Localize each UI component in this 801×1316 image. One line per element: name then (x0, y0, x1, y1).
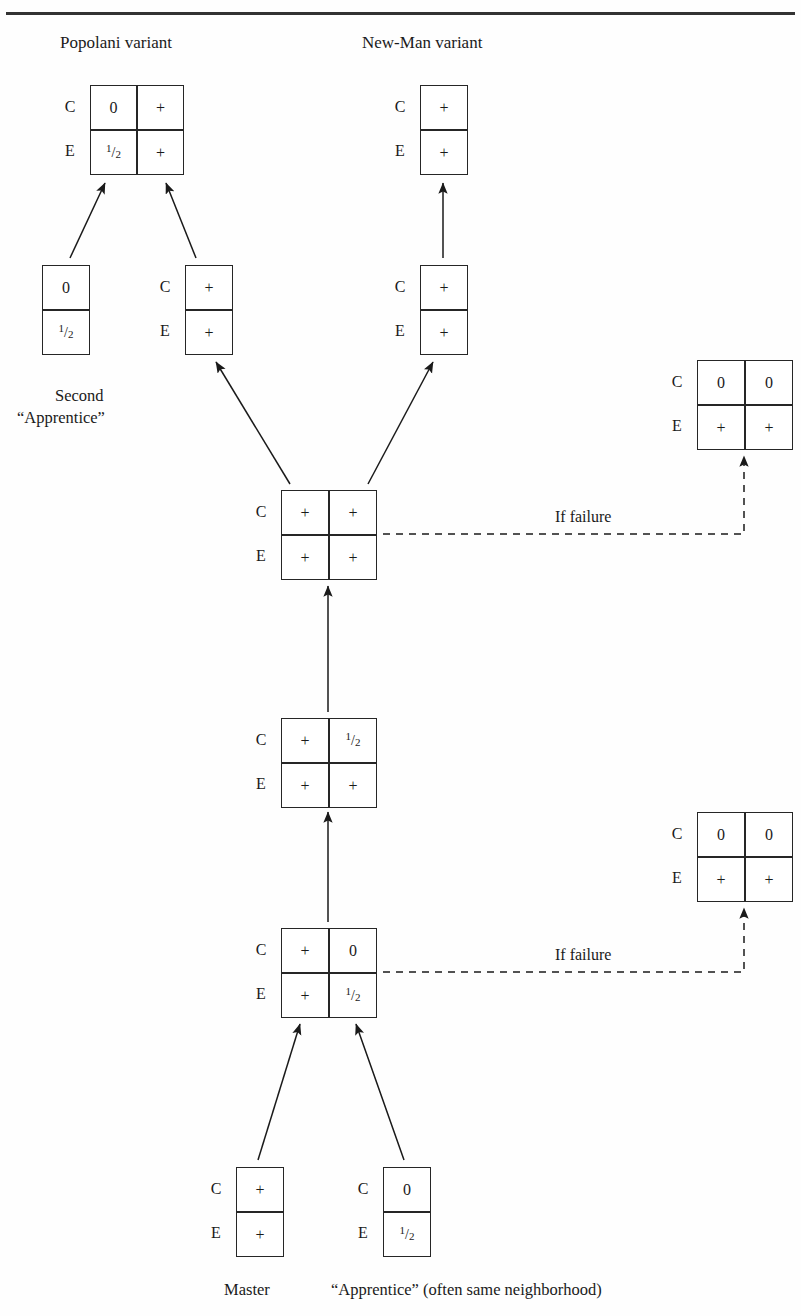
row-label-e-newman-parent: E (392, 323, 408, 339)
matrix-cell: + (329, 491, 376, 535)
matrix-cell: 1/2 (91, 130, 137, 174)
row-label-c-popolani-result: C (62, 99, 78, 115)
connector-layer (0, 0, 801, 1316)
new-man-parent-matrix: ++ (420, 265, 468, 355)
edge-label-if-failure-top: If failure (555, 508, 611, 526)
matrix-cell: + (421, 86, 467, 130)
failure-outcome-top-matrix: 00++ (697, 360, 793, 450)
matrix-cell: + (282, 763, 329, 807)
matrix-cell: + (237, 1168, 283, 1212)
matrix-cell: + (137, 86, 183, 130)
row-label-e-failure-top: E (669, 418, 685, 434)
row-label-e-popolani-parent: E (157, 323, 173, 339)
row-label-c-newman-result: C (392, 99, 408, 115)
row-label-e-center-full: E (253, 548, 269, 564)
lower-stage-matrix: +0+1/2 (281, 928, 377, 1018)
row-label-e-master: E (208, 1225, 224, 1241)
row-label-c-master: C (208, 1181, 224, 1197)
matrix-cell: + (329, 535, 376, 579)
row-label-c-mid-half: C (253, 732, 269, 748)
matrix-cell: + (698, 857, 745, 901)
matrix-cell: 0 (745, 361, 792, 405)
matrix-cell: 1/2 (384, 1212, 430, 1256)
center-full-plus-matrix: ++++ (281, 490, 377, 580)
matrix-cell: + (745, 857, 792, 901)
matrix-cell: 1/2 (329, 719, 376, 763)
matrix-cell: 1/2 (43, 310, 89, 354)
matrix-cell: + (282, 535, 329, 579)
matrix-cell: + (186, 310, 232, 354)
row-label-c-apprentice: C (355, 1181, 371, 1197)
row-label-c-center-full: C (253, 504, 269, 520)
arrow-center-to-popolani-parent (216, 362, 290, 484)
failure-outcome-bottom-matrix: 00++ (697, 812, 793, 902)
matrix-cell: + (186, 266, 232, 310)
popolani-parent-matrix: ++ (185, 265, 233, 355)
matrix-cell: 0 (91, 86, 137, 130)
matrix-cell: 1/2 (329, 973, 376, 1017)
row-label-e-newman-result: E (392, 143, 408, 159)
popolani-variant-matrix: 0+1/2+ (90, 85, 184, 175)
heading-popolani-variant: Popolani variant (60, 33, 172, 53)
arrow-master-to-lower (258, 1024, 300, 1160)
row-label-c-failure-bottom: C (669, 826, 685, 842)
row-label-c-failure-top: C (669, 374, 685, 390)
master-matrix: ++ (236, 1167, 284, 1257)
caption-second: Second (55, 385, 104, 407)
row-label-c-newman-parent: C (392, 279, 408, 295)
matrix-cell: + (237, 1212, 283, 1256)
caption-apprentice: “Apprentice” (often same neighborhood) (331, 1279, 602, 1301)
matrix-cell: + (329, 763, 376, 807)
row-label-c-popolani-parent: C (157, 279, 173, 295)
new-man-variant-matrix: ++ (420, 85, 468, 175)
matrix-cell: + (282, 491, 329, 535)
arrow-apprentice-to-lower (356, 1024, 404, 1160)
matrix-cell: + (421, 130, 467, 174)
arrow-center-to-newman-parent (368, 362, 433, 484)
row-label-e-lower-zero: E (253, 986, 269, 1002)
matrix-cell: + (421, 266, 467, 310)
matrix-cell: + (745, 405, 792, 449)
matrix-cell: 0 (329, 929, 376, 973)
matrix-cell: + (282, 973, 329, 1017)
matrix-cell: + (282, 929, 329, 973)
caption-master: Master (224, 1279, 270, 1301)
row-label-e-mid-half: E (253, 776, 269, 792)
matrix-cell: + (282, 719, 329, 763)
row-label-e-apprentice: E (355, 1225, 371, 1241)
matrix-cell: 0 (384, 1168, 430, 1212)
second-apprentice-matrix: 01/2 (42, 265, 90, 355)
matrix-cell: + (698, 405, 745, 449)
arrow-popolani-parent-to-popolani (166, 183, 196, 258)
apprentice-matrix: 01/2 (383, 1167, 431, 1257)
matrix-cell: 0 (745, 813, 792, 857)
top-horizontal-rule (6, 12, 795, 15)
caption-second-apprentice: “Apprentice” (17, 407, 105, 429)
diagram-page: Popolani variant New-Man variant Second … (0, 0, 801, 1316)
matrix-cell: + (137, 130, 183, 174)
mid-stage-matrix: +1/2++ (281, 718, 377, 808)
row-label-e-popolani-result: E (62, 143, 78, 159)
heading-new-man-variant: New-Man variant (362, 33, 482, 53)
matrix-cell: 0 (698, 361, 745, 405)
arrow-second-apprentice-to-popolani (70, 183, 105, 258)
edge-label-if-failure-bottom: If failure (555, 946, 611, 964)
row-label-e-failure-bottom: E (669, 870, 685, 886)
matrix-cell: 0 (43, 266, 89, 310)
matrix-cell: + (421, 310, 467, 354)
row-label-c-lower-zero: C (253, 942, 269, 958)
matrix-cell: 0 (698, 813, 745, 857)
